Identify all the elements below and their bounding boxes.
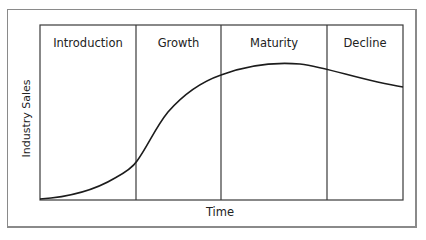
x-axis-label: Time — [180, 205, 260, 219]
y-axis-label: Industry Sales — [20, 79, 33, 159]
stage-label-decline: Decline — [327, 36, 403, 50]
stage-label-introduction: Introduction — [40, 36, 136, 50]
stage-label-growth: Growth — [136, 36, 221, 50]
stage-label-maturity: Maturity — [221, 36, 327, 50]
